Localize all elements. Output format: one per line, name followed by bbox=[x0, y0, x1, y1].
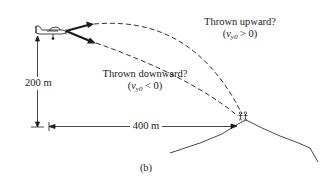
downward-launch-arrow bbox=[66, 31, 90, 41]
downward-label-title: Thrown downward? bbox=[103, 68, 188, 80]
upward-label-condition: (vy0 > 0) bbox=[204, 28, 276, 43]
upward-label: Thrown upward? (vy0 > 0) bbox=[204, 16, 276, 43]
upward-label-title: Thrown upward? bbox=[204, 16, 276, 28]
upward-launch-arrow bbox=[66, 25, 88, 31]
launch-arrows bbox=[66, 22, 96, 44]
arrowhead-up-icon bbox=[86, 22, 94, 29]
height-label: 200 m bbox=[25, 77, 52, 89]
downward-label: Thrown downward? (vy0 < 0) bbox=[103, 68, 188, 95]
projectile-diagram: Thrown upward? (vy0 > 0) Thrown downward… bbox=[0, 0, 329, 179]
distance-label: 400 m bbox=[131, 120, 162, 132]
airplane-icon bbox=[36, 26, 66, 40]
downward-label-condition: (vy0 < 0) bbox=[103, 80, 188, 95]
figure-caption: (b) bbox=[140, 162, 152, 174]
climbers-icon bbox=[239, 112, 248, 121]
